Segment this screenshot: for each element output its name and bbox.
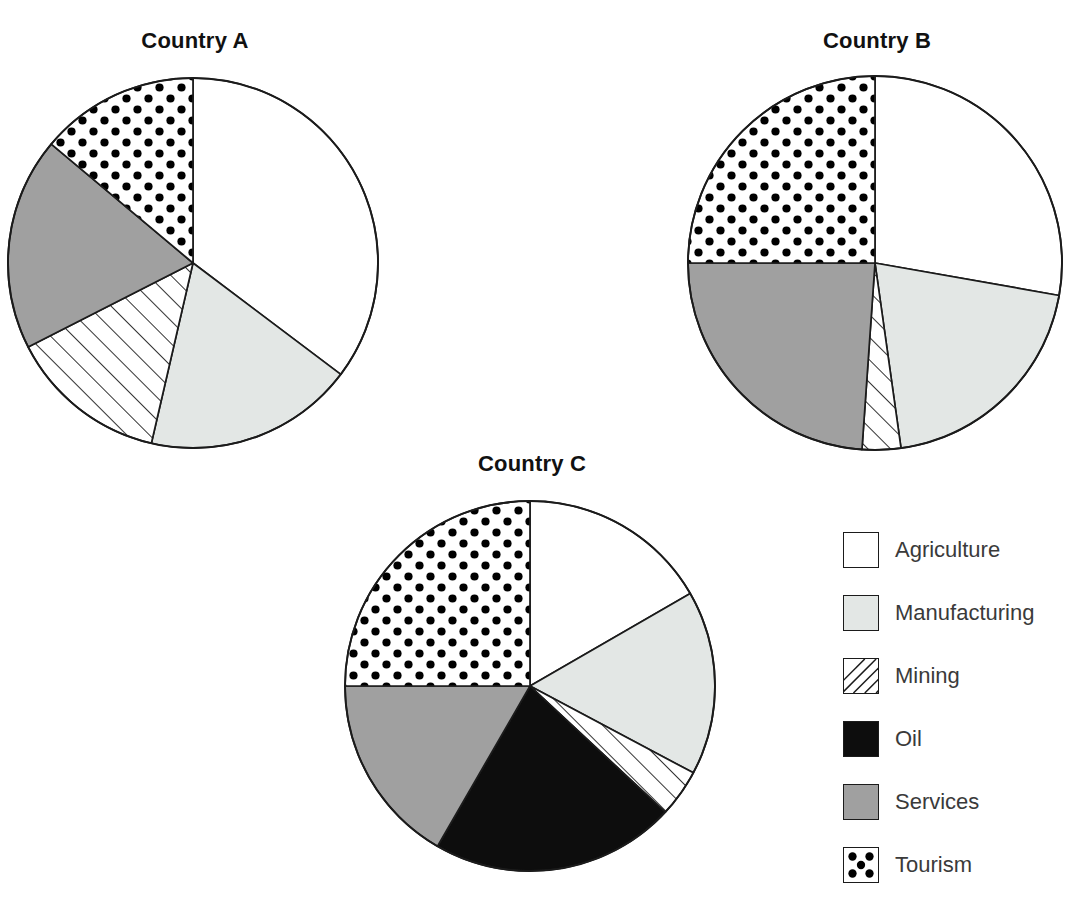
pie-slice-tourism[interactable] xyxy=(688,76,875,263)
pie-svg-country-b xyxy=(682,60,1072,438)
legend: Agriculture Manufacturing Mining Oil Ser… xyxy=(843,518,1072,896)
legend-item-services[interactable]: Services xyxy=(843,770,1072,833)
legend-swatch-tourism-pattern xyxy=(844,848,878,882)
legend-label-tourism: Tourism xyxy=(895,854,972,876)
pie-chart-country-a: Country A xyxy=(0,28,390,438)
legend-swatch-mining xyxy=(843,658,879,694)
legend-item-manufacturing[interactable]: Manufacturing xyxy=(843,581,1072,644)
legend-item-agriculture[interactable]: Agriculture xyxy=(843,518,1072,581)
pie-slice-agriculture[interactable] xyxy=(875,76,1062,295)
legend-swatch-agriculture xyxy=(843,532,879,568)
legend-label-agriculture: Agriculture xyxy=(895,539,1000,561)
legend-swatch-oil xyxy=(843,721,879,757)
legend-item-oil[interactable]: Oil xyxy=(843,707,1072,770)
chart-title-country-a: Country A xyxy=(0,28,390,54)
chart-title-country-b: Country B xyxy=(682,28,1072,54)
legend-label-manufacturing: Manufacturing xyxy=(895,602,1034,624)
pie-slice-services[interactable] xyxy=(688,263,875,450)
legend-item-mining[interactable]: Mining xyxy=(843,644,1072,707)
legend-swatch-services xyxy=(843,784,879,820)
pie-chart-country-c: Country C xyxy=(337,451,727,861)
legend-swatch-manufacturing xyxy=(843,595,879,631)
legend-label-services: Services xyxy=(895,791,979,813)
chart-title-country-c: Country C xyxy=(337,451,727,477)
legend-swatch-tourism xyxy=(843,847,879,883)
pie-slice-manufacturing[interactable] xyxy=(875,263,1059,448)
pie-canvas-country-a xyxy=(0,60,390,438)
legend-label-mining: Mining xyxy=(895,665,960,687)
pie-slice-tourism[interactable] xyxy=(345,501,530,686)
pie-canvas-country-b xyxy=(682,60,1072,438)
pie-chart-country-b: Country B xyxy=(682,28,1072,438)
pie-svg-country-a xyxy=(0,60,390,438)
legend-item-tourism[interactable]: Tourism xyxy=(843,833,1072,896)
legend-swatch-mining-pattern xyxy=(844,659,878,693)
pie-svg-country-c xyxy=(337,483,727,861)
legend-label-oil: Oil xyxy=(895,728,922,750)
pie-canvas-country-c xyxy=(337,483,727,861)
